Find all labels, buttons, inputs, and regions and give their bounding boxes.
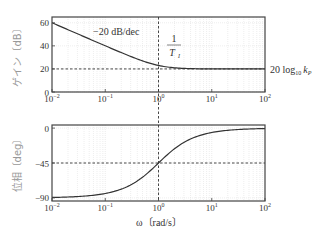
x-tick-label: 10−2	[44, 202, 59, 213]
x-tick-label: 10−2	[44, 93, 59, 104]
corner-subscript: I	[177, 53, 181, 59]
phase-panel: 0−45−9010−210−1100101102	[35, 124, 271, 213]
kp-annotation: 20 log10kP	[270, 64, 312, 76]
kp-log-sub: 10	[295, 70, 301, 76]
y-tick-label: 0	[45, 124, 50, 134]
y-tick-label: 20	[40, 64, 50, 74]
gain-panel: 020406010−210−1100101102	[40, 17, 271, 104]
corner-denominator: T	[169, 47, 176, 58]
slope-annotation: −20 dB/dec	[93, 26, 140, 37]
x-axis-label: ω〔rad/s〕	[136, 217, 182, 228]
y-tick-label: −90	[35, 193, 50, 203]
x-tick-label: 102	[259, 202, 271, 213]
y-tick-label: 60	[40, 18, 50, 28]
corner-numerator: 1	[172, 33, 177, 44]
x-tick-label: 102	[259, 93, 271, 104]
x-tick-label: 100	[153, 202, 165, 213]
x-tick-label: 10−1	[98, 93, 113, 104]
x-tick-label: 101	[206, 202, 218, 213]
y-tick-label: −45	[35, 159, 50, 169]
gain-y-axis-label: ゲイン〔dB〕	[12, 23, 23, 86]
x-tick-label: 101	[206, 93, 218, 104]
kp-prefix: 20 log	[270, 64, 295, 75]
bode-plot: 020406010−210−1100101102 0−45−9010−210−1…	[0, 0, 325, 242]
svg-text:20 log10kP: 20 log10kP	[270, 64, 312, 76]
kp-var-sub: P	[307, 70, 312, 76]
phase-y-axis-label: 位相〔deg〕	[11, 134, 23, 193]
y-tick-label: 40	[40, 41, 50, 51]
x-tick-label: 10−1	[98, 202, 113, 213]
